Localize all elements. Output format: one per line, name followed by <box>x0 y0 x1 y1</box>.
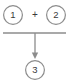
node-output-3-label: 3 <box>32 64 37 75</box>
node-input-1-label: 1 <box>10 9 15 20</box>
down-arrow-head-icon <box>32 53 38 60</box>
node-input-2: 2 <box>47 6 66 25</box>
node-input-1: 1 <box>4 6 23 25</box>
plus-operator-label: + <box>32 9 38 20</box>
diagram-canvas: 1 + 2 3 <box>0 0 69 82</box>
summation-diagram: 1 + 2 3 <box>0 0 69 82</box>
node-input-2-label: 2 <box>53 9 58 20</box>
node-output-3: 3 <box>26 61 45 80</box>
